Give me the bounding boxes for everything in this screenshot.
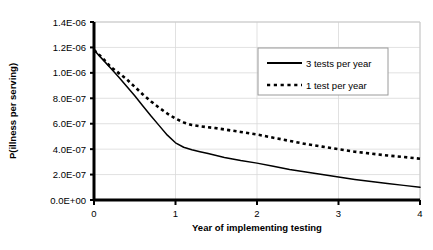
y-tick-label: 1.0E-06 (53, 67, 86, 78)
y-axis-label: P(illness per serving) (7, 63, 18, 159)
x-tick-label: 0 (91, 208, 96, 219)
y-tick-label: 1.4E-06 (53, 17, 86, 28)
line-chart: 0.0E+002.0E-074.0E-076.0E-078.0E-071.0E-… (0, 0, 433, 250)
y-tick-label: 0.0E+00 (50, 195, 86, 206)
chart-figure: 0.0E+002.0E-074.0E-076.0E-078.0E-071.0E-… (0, 0, 433, 250)
x-axis-label: Year of implementing testing (192, 222, 322, 233)
x-tick-label: 4 (417, 208, 422, 219)
y-tick-label: 2.0E-07 (53, 169, 86, 180)
legend-label-2: 1 test per year (306, 80, 367, 91)
x-tick-label: 1 (173, 208, 178, 219)
y-tick-label: 6.0E-07 (53, 118, 86, 129)
y-tick-label: 8.0E-07 (53, 93, 86, 104)
x-tick-label: 2 (254, 208, 259, 219)
y-tick-label: 1.2E-06 (53, 42, 86, 53)
legend-label-1: 3 tests per year (306, 58, 371, 69)
y-tick-label: 4.0E-07 (53, 144, 86, 155)
x-tick-label: 3 (336, 208, 341, 219)
